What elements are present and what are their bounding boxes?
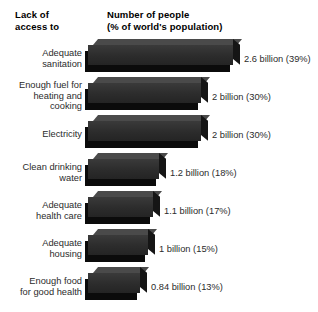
bar-category-label: Enough food for good health <box>0 276 82 297</box>
bar-value-label: 1.1 billion (17%) <box>164 206 231 217</box>
bar-front-face <box>88 273 140 293</box>
column-header-value: Number of people (% of world's populatio… <box>107 9 222 32</box>
bar-end-cap <box>159 153 166 179</box>
bar-category-label: Adequate sanitation <box>0 48 82 69</box>
bar-front-face <box>88 159 159 179</box>
bar-front-face <box>88 197 153 217</box>
bar-top-face <box>93 153 168 159</box>
bar-value-label: 2.6 billion (39%) <box>244 54 311 65</box>
column-header-category: Lack of access to <box>15 9 59 32</box>
bar-value-label: 1.2 billion (18%) <box>170 168 237 179</box>
bar-end-cap <box>153 191 160 217</box>
bar-chart: Lack of access to Number of people (% of… <box>0 0 318 312</box>
bar-top-face <box>93 115 210 121</box>
bar-value-label: 2 billion (30%) <box>212 92 271 103</box>
bar-front-face <box>88 83 201 103</box>
bar-graphic <box>85 197 158 224</box>
bar-value-label: 1 billion (15%) <box>159 244 218 255</box>
bar-graphic <box>85 273 145 300</box>
bar-front-face <box>88 121 201 141</box>
bar-category-label: Electricity <box>0 129 82 140</box>
bar-category-label: Enough fuel for heating and cooking <box>0 80 82 112</box>
bar-category-label: Adequate housing <box>0 238 82 259</box>
bar-value-label: 0.84 billion (13%) <box>151 282 223 293</box>
bar-category-label: Clean drinking water <box>0 162 82 183</box>
bar-graphic <box>85 235 153 262</box>
bar-top-face <box>93 39 242 45</box>
bar-top-face <box>93 77 210 83</box>
bar-value-label: 2 billion (30%) <box>212 130 271 141</box>
bar-graphic <box>85 121 206 148</box>
bar-category-label: Adequate health care <box>0 200 82 221</box>
bar-end-cap <box>140 267 147 293</box>
bar-front-face <box>88 235 148 255</box>
bar-end-cap <box>148 229 155 255</box>
bar-end-cap <box>201 115 208 141</box>
bar-end-cap <box>233 39 240 65</box>
bar-front-face <box>88 45 233 65</box>
bar-graphic <box>85 45 238 72</box>
bar-end-cap <box>201 77 208 103</box>
bar-graphic <box>85 159 164 186</box>
bar-top-face <box>93 191 162 197</box>
bar-graphic <box>85 83 206 110</box>
